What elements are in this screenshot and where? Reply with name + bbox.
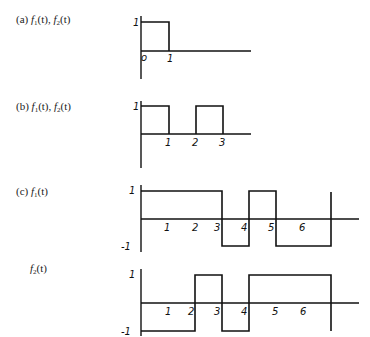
x-tick-2: 2: [192, 222, 198, 233]
x-tick-5: 5: [272, 306, 278, 317]
x-tick-2: 2: [188, 306, 194, 317]
x-tick-6: 6: [300, 306, 306, 317]
panel-c-f2-plot: 1 -1 1 2 3 4 5 6: [121, 269, 359, 337]
x-tick-6: 6: [299, 222, 305, 233]
x-tick-1: 1: [165, 137, 171, 148]
panel-c-f1-plot: 1 -1 1 2 3 4 5 6: [121, 185, 359, 252]
panel-b-plot: 1 1 2 3: [133, 101, 251, 168]
x-tick-3: 3: [214, 222, 220, 233]
waveform-figure: 1 o 1 1 1 2 3 1 -1 1 2 3 4 5 6 1 -1 1 2 …: [0, 0, 370, 337]
x-tick-5: 5: [268, 222, 274, 233]
x-tick-1: 1: [165, 306, 171, 317]
x-tick-4: 4: [241, 306, 247, 317]
x-tick-3: 3: [219, 137, 225, 148]
y-tick-neg1: -1: [121, 326, 131, 337]
x-tick-3: 3: [214, 306, 220, 317]
y-tick-1: 1: [133, 17, 139, 28]
x-tick-2: 2: [192, 137, 198, 148]
pulse-2: [196, 106, 223, 134]
pulse-waveform: [141, 22, 169, 51]
y-tick-neg1: -1: [121, 241, 131, 252]
panel-a-plot: 1 o 1: [133, 16, 251, 79]
x-tick-1: 1: [167, 53, 173, 64]
pulse-1: [141, 106, 169, 134]
x-tick-1: 1: [164, 222, 170, 233]
y-tick-1: 1: [129, 185, 135, 196]
y-tick-1: 1: [129, 269, 135, 280]
y-tick-1: 1: [133, 101, 139, 112]
x-tick-0: o: [141, 52, 147, 63]
x-tick-4: 4: [241, 222, 247, 233]
